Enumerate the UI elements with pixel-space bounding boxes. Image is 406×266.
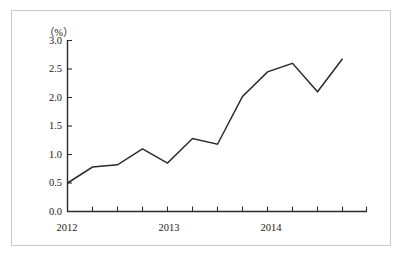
chart-figure: （%） 3.0 2.5 2.0 1.5 1.0 0.5 0.0 2012 201… (0, 0, 406, 266)
plot-area (0, 0, 406, 266)
x-axis-ticks (93, 207, 367, 212)
data-series-line (68, 59, 343, 183)
